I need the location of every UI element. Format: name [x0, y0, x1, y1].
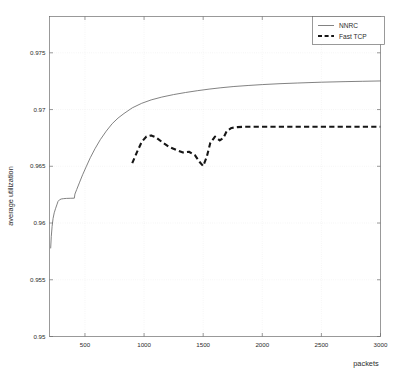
y-tick-label: 0.96: [33, 219, 46, 226]
x-axis-title: packets: [353, 359, 379, 368]
chart-background: [0, 0, 401, 381]
x-tick-label: 1500: [196, 341, 210, 348]
legend: NNRC Fast TCP: [313, 17, 385, 45]
y-axis-title: average utilization: [6, 166, 15, 226]
y-tick-label: 0.965: [30, 162, 46, 169]
x-tick-label: 3000: [374, 341, 388, 348]
y-tick-label: 0.95: [33, 333, 46, 340]
x-tick-label: 500: [80, 341, 91, 348]
y-tick-label: 0.955: [30, 276, 46, 283]
y-tick-label: 0.97: [33, 106, 46, 113]
legend-entry-nnrc-label: NNRC: [339, 22, 358, 29]
x-tick-label: 2000: [255, 341, 269, 348]
chart-figure: 500100015002000250030000.950.9550.960.96…: [0, 0, 401, 381]
legend-entry-fasttcp-label: Fast TCP: [339, 33, 367, 40]
legend-box: [313, 17, 385, 45]
x-tick-label: 1000: [137, 341, 151, 348]
x-tick-label: 2500: [315, 341, 329, 348]
y-tick-label: 0.975: [30, 49, 46, 56]
line-chart-canvas: 500100015002000250030000.950.9550.960.96…: [0, 0, 401, 381]
